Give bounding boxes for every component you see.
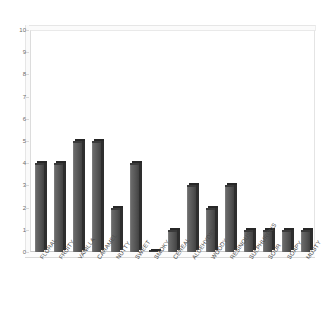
y-axis-tick-mark	[26, 208, 29, 209]
y-axis-tick-label: 9	[6, 49, 26, 55]
bar-slot[interactable]	[92, 30, 104, 252]
bar-slot[interactable]	[187, 30, 199, 252]
bar-slot[interactable]	[206, 30, 218, 252]
bar-top-cap	[132, 161, 142, 163]
bar-top-cap	[303, 228, 313, 230]
bar-side-face	[196, 184, 199, 250]
y-axis-tick-mark	[26, 30, 29, 31]
bar-slot[interactable]	[149, 30, 161, 252]
bar-slot[interactable]	[263, 30, 275, 252]
y-axis-tick-label: 8	[6, 71, 26, 77]
bar-side-face	[63, 162, 66, 250]
bar-top-cap	[284, 228, 294, 230]
y-axis-tick-label: 3	[6, 182, 26, 188]
bar-slot[interactable]	[35, 30, 47, 252]
bar[interactable]	[92, 141, 101, 252]
bar-slot[interactable]	[130, 30, 142, 252]
bar-top-face	[73, 141, 82, 143]
bar[interactable]	[111, 208, 120, 252]
bar-top-cap	[75, 139, 85, 141]
y-axis-tick-mark	[26, 185, 29, 186]
y-axis-tick-label: 6	[6, 116, 26, 122]
bar-slot[interactable]	[282, 30, 294, 252]
bar-side-face	[120, 207, 123, 250]
bar-side-face	[215, 207, 218, 250]
bar-top-face	[225, 185, 234, 187]
y-axis-tick-mark	[26, 230, 29, 231]
bar-top-cap	[113, 206, 123, 208]
y-axis-tick-label: 2	[6, 205, 26, 211]
y-axis-tick-mark	[26, 97, 29, 98]
bar[interactable]	[73, 141, 82, 252]
bar-chart: 012345678910 FLORALFRUITYVANILLACARAMELN…	[0, 0, 329, 327]
bar-slot[interactable]	[111, 30, 123, 252]
bar-top-face	[168, 230, 177, 232]
bar[interactable]	[35, 163, 44, 252]
bar-slot[interactable]	[73, 30, 85, 252]
bar-series	[30, 30, 315, 252]
bar-side-face	[234, 184, 237, 250]
bar-slot[interactable]	[225, 30, 237, 252]
bar-side-face	[44, 162, 47, 250]
bar-top-face	[35, 163, 44, 165]
bar-top-face	[130, 163, 139, 165]
bar-top-face	[92, 141, 101, 143]
y-axis-tick-mark	[26, 141, 29, 142]
bar-top-face	[54, 163, 63, 165]
y-axis-tick-label: 1	[6, 227, 26, 233]
bar-top-face	[301, 230, 310, 232]
y-axis-tick-mark	[26, 74, 29, 75]
y-axis-tick-label: 0	[6, 249, 26, 255]
bar-top-face	[187, 185, 196, 187]
bar-top-face	[111, 208, 120, 210]
bar-side-face	[101, 140, 104, 250]
bar-top-cap	[208, 206, 218, 208]
bar-top-cap	[189, 183, 199, 185]
y-axis-tick-label: 4	[6, 160, 26, 166]
bar-top-cap	[227, 183, 237, 185]
y-axis-tick-mark	[26, 119, 29, 120]
bar[interactable]	[282, 230, 291, 252]
x-axis-labels: FLORALFRUITYVANILLACARAMELNUTTYSWEETSMOK…	[30, 257, 320, 327]
bar[interactable]	[130, 163, 139, 252]
bar-side-face	[82, 140, 85, 250]
bar-slot[interactable]	[54, 30, 66, 252]
bar[interactable]	[301, 230, 310, 252]
y-axis-tick-label: 7	[6, 94, 26, 100]
y-axis-tick-label: 5	[6, 138, 26, 144]
bar-top-cap	[56, 161, 66, 163]
y-axis-tick-mark	[26, 163, 29, 164]
y-axis-tick-label: 10	[6, 27, 26, 33]
bar-slot[interactable]	[301, 30, 313, 252]
bar-top-cap	[94, 139, 104, 141]
bar-slot[interactable]	[244, 30, 256, 252]
y-axis: 012345678910	[0, 0, 26, 327]
bar-top-face	[282, 230, 291, 232]
y-axis-tick-mark	[26, 52, 29, 53]
bar-side-face	[139, 162, 142, 250]
bar-top-cap	[37, 161, 47, 163]
bar-top-cap	[170, 228, 180, 230]
y-axis-tick-mark	[26, 252, 29, 253]
bar-top-face	[206, 208, 215, 210]
bar-slot[interactable]	[168, 30, 180, 252]
